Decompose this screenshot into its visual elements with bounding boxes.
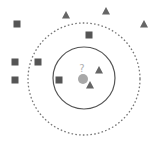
square-point bbox=[14, 21, 21, 28]
triangle-point bbox=[95, 66, 103, 74]
triangle-point bbox=[86, 81, 94, 89]
triangle-point bbox=[140, 20, 148, 28]
class-square-points bbox=[12, 21, 93, 84]
query-question-mark: ? bbox=[79, 63, 84, 74]
knn-diagram: ? bbox=[0, 0, 158, 145]
square-point bbox=[35, 59, 42, 66]
square-point bbox=[12, 59, 19, 66]
triangle-point bbox=[102, 7, 110, 15]
square-point bbox=[56, 77, 63, 84]
square-point bbox=[12, 77, 19, 84]
square-point bbox=[86, 32, 93, 39]
triangle-point bbox=[62, 11, 70, 19]
query-point bbox=[78, 74, 88, 84]
